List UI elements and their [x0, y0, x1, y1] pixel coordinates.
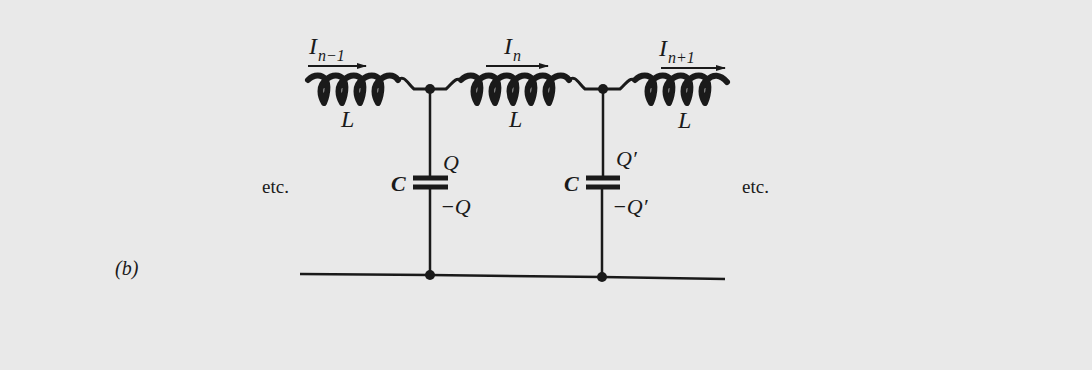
capacitor-1-charge-bottom: −Q [440, 196, 471, 218]
panel-label: (b) [115, 258, 138, 278]
inductor-3 [603, 76, 727, 104]
current-label-n-minus-1: In−1 [309, 34, 345, 58]
inductor-label-3: L [678, 108, 691, 132]
capacitor-2-charge-bottom: −Q′ [612, 196, 648, 218]
inductor-2 [430, 76, 603, 104]
continuation-left: etc. [262, 177, 289, 196]
ground-node-1 [425, 270, 435, 280]
capacitor-2 [586, 89, 620, 277]
current-subscript: n [513, 47, 521, 64]
current-symbol: I [659, 35, 667, 61]
capacitor-2-charge-top: Q′ [616, 148, 637, 170]
ground-node-2 [597, 272, 607, 282]
circuit-diagram [0, 0, 1092, 370]
capacitor-1-charge-top: Q [443, 152, 459, 174]
current-symbol: I [309, 33, 317, 59]
capacitor-label-2: C [564, 173, 579, 195]
current-subscript: n−1 [318, 47, 345, 64]
return-line [300, 274, 725, 279]
inductor-label-2: L [509, 107, 522, 131]
continuation-right: etc. [742, 177, 769, 196]
current-symbol: I [504, 33, 512, 59]
inductor-1 [308, 76, 430, 104]
capacitor-1 [413, 89, 448, 275]
current-subscript: n+1 [668, 49, 695, 66]
inductor-label-1: L [341, 107, 354, 131]
current-label-n: In [504, 34, 521, 58]
capacitor-label-1: C [391, 173, 406, 195]
current-label-n-plus-1: In+1 [659, 36, 695, 60]
